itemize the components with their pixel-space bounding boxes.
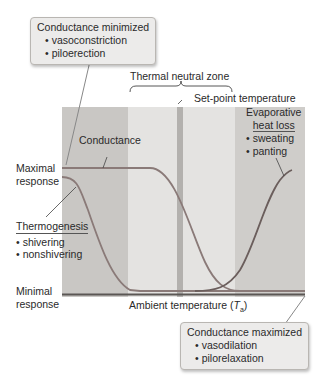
conductance-minimized-box: Conductance minimized vasoconstriction p…	[30, 17, 156, 65]
maximal-line2: response	[16, 175, 59, 188]
maximal-response-label: Maximal response	[16, 162, 59, 187]
evaporative-label: Evaporative heat loss sweating panting	[246, 106, 301, 157]
conductance-label: Conductance	[79, 134, 141, 147]
x-axis-suffix: )	[244, 299, 248, 311]
box-title: Conductance minimized	[37, 21, 149, 34]
evaporative-item: panting	[246, 145, 301, 158]
box-item: vasodilation	[187, 339, 302, 352]
evaporative-title2: heat loss	[253, 119, 295, 133]
x-axis-prefix: Ambient temperature (	[129, 299, 233, 311]
minimal-line1: Minimal	[16, 285, 59, 298]
thermogenesis-item: nonshivering	[16, 248, 88, 261]
x-axis-label: Ambient temperature (Ta)	[129, 299, 247, 317]
thermal-neutral-zone-label: Thermal neutral zone	[130, 70, 229, 83]
set-point-label: Set-point temperature	[194, 92, 296, 105]
minimal-response-label: Minimal response	[16, 285, 59, 310]
box-item: piloerection	[37, 47, 149, 60]
minimal-line2: response	[16, 298, 59, 311]
thermogenesis-title: Thermogenesis	[16, 220, 88, 234]
evaporative-item: sweating	[246, 132, 301, 145]
neutral-zone-brace	[130, 81, 232, 92]
thermogenesis-label: Thermogenesis shivering nonshivering	[16, 220, 88, 261]
box-item: vasoconstriction	[37, 34, 149, 47]
evaporative-title1: Evaporative	[246, 106, 301, 119]
set-point-leader	[178, 100, 182, 104]
maximal-line1: Maximal	[16, 162, 59, 175]
bottom-box-leader	[285, 296, 305, 324]
box-item: pilorelaxation	[187, 352, 302, 365]
conductance-maximized-box: Conductance maximized vasodilation pilor…	[180, 322, 309, 370]
thermogenesis-item: shivering	[16, 236, 88, 249]
box-title: Conductance maximized	[187, 326, 302, 339]
